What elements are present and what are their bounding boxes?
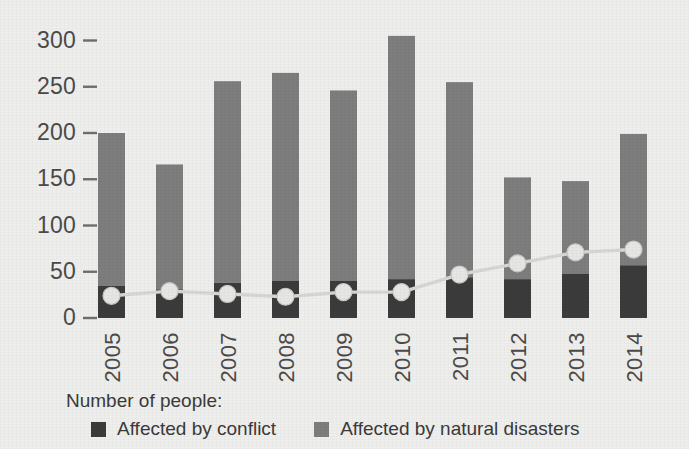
x-axis-category-label: 2012	[506, 332, 531, 383]
legend-entry-label: Affected by conflict	[117, 418, 276, 440]
bar-segment-conflict	[504, 279, 531, 318]
trend-line-marker	[335, 284, 352, 301]
x-axis-category-label: 2010	[390, 332, 415, 383]
chart-figure: 050100150200250300 200520062007200820092…	[0, 0, 689, 449]
trend-line-marker	[451, 266, 468, 283]
legend-color-swatch	[314, 422, 329, 437]
trend-line-marker	[161, 283, 178, 300]
x-axis-category-label: 2013	[564, 332, 589, 383]
x-axis-category-label: 2006	[158, 332, 183, 383]
y-axis-tick-label: 250	[37, 73, 76, 99]
y-axis: 050100150200250300	[37, 27, 97, 331]
x-axis-category-label: 2005	[100, 332, 125, 383]
legend-entry[interactable]: Affected by natural disasters	[314, 418, 579, 440]
bar-segment-disaster	[446, 82, 473, 277]
trend-line-marker	[509, 255, 526, 272]
legend-entry[interactable]: Affected by conflict	[91, 418, 276, 440]
y-axis-tick-label: 50	[50, 258, 76, 284]
x-axis-category-label: 2011	[448, 332, 473, 381]
trend-line-marker	[393, 284, 410, 301]
legend-title: Number of people:	[66, 390, 666, 412]
y-axis-tick-label: 100	[37, 212, 76, 238]
legend-entry-label: Affected by natural disasters	[340, 418, 579, 440]
chart-legend: Number of people: Affected by conflictAf…	[66, 390, 666, 440]
trend-line-marker	[219, 285, 236, 302]
trend-line-marker	[277, 288, 294, 305]
trend-line-marker	[567, 244, 584, 261]
trend-line-marker	[625, 241, 642, 258]
bar-series-group	[98, 36, 647, 318]
bar-segment-disaster	[214, 81, 241, 283]
bar-segment-conflict	[562, 274, 589, 318]
x-axis-category-label: 2007	[216, 332, 241, 383]
legend-color-swatch	[91, 422, 106, 437]
trend-line-path	[112, 250, 634, 297]
y-axis-tick-label: 200	[37, 119, 76, 145]
bar-segment-disaster	[98, 133, 125, 286]
y-axis-tick-label: 300	[37, 27, 76, 53]
x-axis: 2005200620072008200920102011201220132014	[100, 332, 647, 383]
x-axis-category-label: 2014	[622, 332, 647, 383]
bar-segment-disaster	[156, 164, 183, 289]
chart-plot-area: 050100150200250300 200520062007200820092…	[0, 0, 689, 449]
y-axis-tick-label: 0	[63, 304, 76, 330]
x-axis-category-label: 2008	[274, 332, 299, 383]
bar-segment-disaster	[272, 73, 299, 281]
trend-line-marker	[103, 287, 120, 304]
legend-entry-list: Affected by conflictAffected by natural …	[66, 418, 666, 440]
bar-segment-disaster	[388, 36, 415, 279]
x-axis-category-label: 2009	[332, 332, 357, 383]
bar-segment-disaster	[330, 90, 357, 281]
bar-segment-conflict	[620, 265, 647, 318]
trend-line-series	[103, 241, 642, 305]
y-axis-tick-label: 150	[37, 165, 76, 191]
